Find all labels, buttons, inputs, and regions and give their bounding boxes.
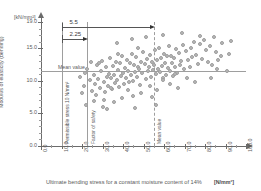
data-point xyxy=(115,78,119,82)
data-point xyxy=(133,70,137,74)
data-point xyxy=(148,84,152,88)
dim-5-5-label: 5.5 xyxy=(70,19,78,25)
data-point xyxy=(93,82,97,86)
data-point xyxy=(154,103,158,107)
data-point xyxy=(147,65,151,69)
y-tick-label: 0.0 xyxy=(0,143,37,148)
y-tick-label: 5.0 xyxy=(0,110,37,115)
data-point xyxy=(144,35,148,39)
data-point xyxy=(112,100,116,104)
data-point xyxy=(161,33,165,37)
data-point xyxy=(181,43,185,47)
data-point xyxy=(220,41,224,45)
data-point xyxy=(188,65,192,69)
data-point xyxy=(200,57,204,61)
data-point xyxy=(167,44,171,48)
data-point xyxy=(102,98,106,102)
data-point xyxy=(177,51,181,55)
data-point xyxy=(84,103,88,107)
data-point xyxy=(153,48,157,52)
data-point xyxy=(126,88,130,92)
data-point xyxy=(102,80,106,84)
data-point xyxy=(210,63,214,67)
data-point xyxy=(78,75,82,79)
data-point xyxy=(229,39,233,43)
data-point xyxy=(204,48,208,52)
data-point xyxy=(112,73,116,77)
data-point xyxy=(164,73,168,77)
data-point xyxy=(146,69,150,73)
data-point xyxy=(176,86,180,90)
data-point xyxy=(185,76,189,80)
data-point xyxy=(159,56,163,60)
dim-2-25-label: 2.25 xyxy=(70,31,82,37)
data-point xyxy=(103,90,107,94)
data-point xyxy=(141,50,145,54)
data-point xyxy=(145,57,149,61)
data-point xyxy=(194,53,198,57)
data-point xyxy=(214,50,218,54)
data-point xyxy=(122,82,126,86)
data-point xyxy=(189,46,193,50)
data-point xyxy=(198,34,202,38)
refline-label-factor-of-safety: Factor of safety xyxy=(91,110,96,144)
data-point xyxy=(225,69,229,73)
data-point xyxy=(115,41,119,45)
dim-2-25-line xyxy=(62,39,85,40)
data-point xyxy=(120,96,124,100)
data-point xyxy=(157,46,161,50)
data-point xyxy=(184,49,188,53)
dim-2-25-start-cap xyxy=(62,35,63,43)
data-point xyxy=(92,99,96,103)
data-point xyxy=(130,37,134,41)
refline-label-mean-value-x: Mean value xyxy=(157,119,162,144)
data-point xyxy=(131,94,135,98)
data-point xyxy=(105,107,109,111)
data-point xyxy=(179,59,183,63)
dim-5-5-arrow-icon xyxy=(150,25,155,29)
x-axis-unit: [N/mm²] xyxy=(214,179,234,185)
data-point xyxy=(104,65,108,69)
data-point xyxy=(140,71,144,75)
data-point xyxy=(117,85,121,89)
data-point xyxy=(139,91,143,95)
refline-label-mean-value-y: Mean value xyxy=(58,64,85,70)
y-tick-label: 19.0 xyxy=(0,19,37,24)
data-point xyxy=(120,54,124,58)
data-point xyxy=(168,69,172,73)
data-point xyxy=(118,61,122,65)
refline-label-permissible-stress: Permissible stress 10 N/mm² xyxy=(65,81,70,144)
data-point xyxy=(109,86,113,90)
data-point xyxy=(121,71,125,75)
data-point xyxy=(161,78,165,82)
y-tick-label: 10.0 xyxy=(0,78,37,83)
data-point xyxy=(144,77,148,81)
data-point xyxy=(94,93,98,97)
data-point xyxy=(209,76,213,80)
data-point xyxy=(143,62,147,66)
plot-area: Permissible stress 10 N/mm²Factor of saf… xyxy=(41,22,246,146)
data-point xyxy=(134,55,138,59)
refline-mean-value-x xyxy=(154,22,155,146)
data-point xyxy=(216,58,220,62)
y-axis-arrow-icon xyxy=(38,12,44,18)
data-point xyxy=(180,31,184,35)
data-point xyxy=(126,69,130,73)
data-point xyxy=(149,75,153,79)
data-point xyxy=(155,88,159,92)
data-point xyxy=(196,62,200,66)
data-point xyxy=(202,38,206,42)
data-point xyxy=(227,52,231,56)
data-point xyxy=(172,56,176,60)
data-point xyxy=(96,77,100,81)
data-point xyxy=(85,67,89,71)
data-point xyxy=(88,78,92,82)
data-point xyxy=(83,71,87,75)
dim-5-5-start-cap xyxy=(62,23,63,31)
y-tick-label: 15.0 xyxy=(0,45,37,50)
data-point xyxy=(215,67,219,71)
data-point xyxy=(192,40,196,44)
data-point xyxy=(168,82,172,86)
data-point xyxy=(135,75,139,79)
data-point xyxy=(173,65,177,69)
